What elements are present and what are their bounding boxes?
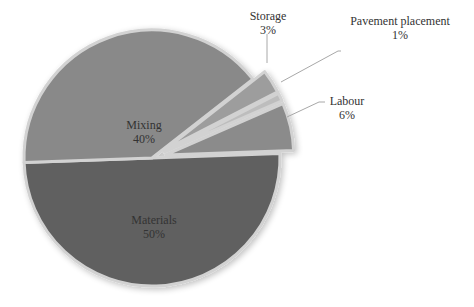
label-labour-name: Labour <box>319 94 375 108</box>
label-storage-name: Storage <box>240 9 296 23</box>
label-materials-pct: 50% <box>117 227 191 241</box>
label-storage-pct: 3% <box>240 23 296 37</box>
label-labour: Labour 6% <box>319 94 375 122</box>
pavement-leader-line <box>281 51 341 82</box>
label-materials: Materials 50% <box>117 213 191 241</box>
label-storage: Storage 3% <box>240 9 296 37</box>
label-materials-name: Materials <box>117 213 191 227</box>
pie-chart <box>0 0 474 307</box>
label-pavement-name: Pavement placement <box>340 14 460 28</box>
label-mixing-pct: 40% <box>112 132 176 146</box>
label-mixing: Mixing 40% <box>112 118 176 146</box>
label-labour-pct: 6% <box>319 108 375 122</box>
label-pavement-pct: 1% <box>340 28 460 42</box>
label-pavement-placement: Pavement placement 1% <box>340 14 460 42</box>
label-mixing-name: Mixing <box>112 118 176 132</box>
